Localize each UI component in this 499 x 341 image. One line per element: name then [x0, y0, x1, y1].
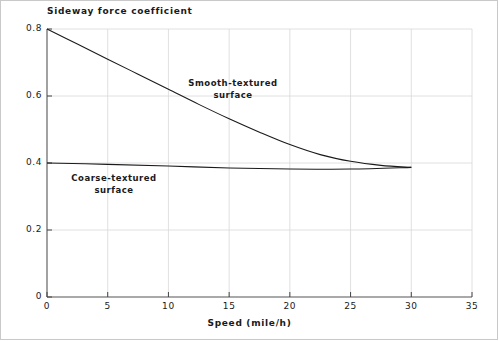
series-label-line: Coarse-textured [53, 172, 175, 184]
series-label-line: surface [53, 184, 175, 196]
series-label-line: surface [172, 89, 294, 101]
x-tick-label: 0 [27, 301, 67, 311]
y-tick-label: 0.8 [2, 23, 42, 33]
plot-area [0, 0, 499, 341]
series-label-smooth: Smooth-texturedsurface [172, 77, 294, 101]
series-label-coarse: Coarse-texturedsurface [53, 172, 175, 196]
x-tick-label: 20 [270, 301, 310, 311]
x-tick-label: 15 [209, 301, 249, 311]
y-tick-label: 0 [2, 291, 42, 301]
x-tick-label: 30 [391, 301, 431, 311]
series-label-line: Smooth-textured [172, 77, 294, 89]
x-tick-label: 10 [148, 301, 188, 311]
x-tick-label: 5 [88, 301, 128, 311]
y-tick-label: 0.2 [2, 224, 42, 234]
x-axis-title: Speed (mile/h) [0, 318, 499, 328]
x-tick-label: 35 [452, 301, 492, 311]
x-tick-label: 25 [331, 301, 371, 311]
y-tick-label: 0.4 [2, 157, 42, 167]
y-tick-label: 0.6 [2, 90, 42, 100]
chart-figure: Sideway force coefficient Speed (mile/h)… [0, 0, 499, 341]
